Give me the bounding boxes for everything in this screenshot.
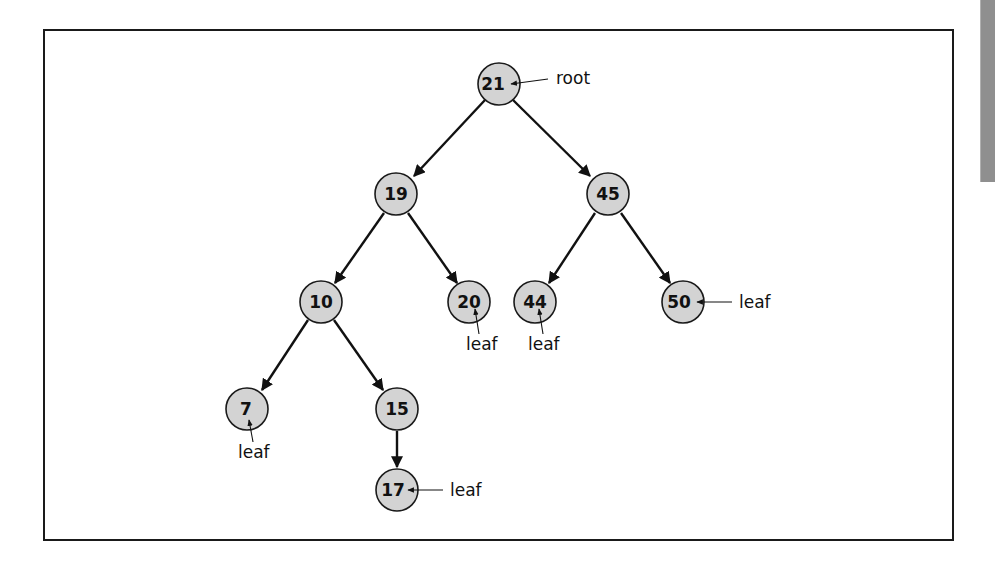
tree-node-7: 7 [226,388,268,430]
edge-19-10 [335,213,384,283]
leaf-label-17: leaf [450,480,483,500]
edge-10-7 [262,320,308,390]
node-value: 50 [667,292,691,312]
edge-10-15 [334,320,383,390]
tree-node-19: 19 [375,173,417,215]
leaf-label-44: leaf [528,334,561,354]
leaf-label-50: leaf [739,292,772,312]
node-value: 17 [381,480,405,500]
leaf-label-20: leaf [466,334,499,354]
tree-node-45: 45 [587,173,629,215]
tree-node-15: 15 [376,388,418,430]
node-value: 10 [309,292,333,312]
node-value: 7 [240,399,252,419]
node-value: 15 [385,399,409,419]
edge-21-45 [513,100,590,176]
edge-45-44 [549,213,595,283]
node-value: 45 [596,184,620,204]
node-value: 44 [523,292,547,312]
tree-node-20: 20 [448,281,490,323]
node-value: 21 [481,74,505,94]
root-label: root [556,68,590,88]
tree-node-10: 10 [300,281,342,323]
edge-45-50 [621,213,670,283]
edge-19-20 [408,213,457,283]
leaf-label-7: leaf [238,442,271,462]
edge-21-19 [414,100,485,176]
node-value: 19 [384,184,408,204]
node-value: 20 [457,292,481,312]
tree-node-44: 44 [514,281,556,323]
